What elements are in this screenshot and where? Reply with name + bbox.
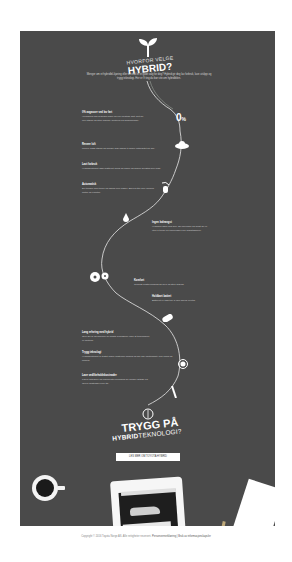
copyright-text: Copyright © 2016 Toyota Norge AS. Alle r… (81, 535, 151, 538)
sprout-icon (137, 37, 159, 57)
footer-links[interactable]: Personvernerklæring | Bruk av informasjo… (152, 535, 211, 538)
section-3: AutomatiskDu trenger ikke tenke på ladin… (82, 183, 157, 194)
section-4: Ingen ladeangstHybriden lader seg selv. … (152, 221, 210, 232)
section-2: Lavt forbrukHybridsystemet lader batteri… (82, 163, 162, 171)
battery-icon (162, 314, 174, 322)
section-8: Trygg teknologiHybridsystemet er testet … (82, 351, 174, 362)
section-1: Renere luftLavere CO2-utslipp og mindre … (82, 143, 162, 151)
badge-icon (178, 359, 188, 369)
infographic-panel: HVORFOR VELGE HYBRID? Menger om et hybri… (20, 31, 275, 526)
coffee-image (36, 479, 54, 497)
gears-icon (90, 271, 110, 283)
cloud-icon (175, 141, 189, 149)
section-0: 0% avgasser ved lav fartI bykjøring kan … (82, 111, 144, 122)
section-6: Holdbart batteriBatteriet er laget for å… (152, 295, 202, 303)
cup-handle (57, 486, 65, 490)
section-5: KomfortTrinnløs kraftoverføring gir myk … (134, 279, 206, 287)
intro-text: Menger om et hybridbil-kjøring eller en … (84, 73, 214, 81)
wrench-icon (170, 386, 178, 398)
zero-percent-stat: 0% (176, 112, 186, 123)
read-more-button[interactable]: LES MER OM TOYOTA HYBRID (116, 453, 180, 461)
section-7: Lang erfaring med hybridOver 20 år og mi… (82, 331, 152, 342)
fuel-drop-icon (122, 213, 130, 224)
signal-hand-icon (160, 181, 170, 193)
footer: Copyright © 2016 Toyota Norge AS. Alle r… (0, 535, 292, 538)
section-9: Lave vedlikeholdskostnaderFærre slitedel… (82, 374, 154, 385)
